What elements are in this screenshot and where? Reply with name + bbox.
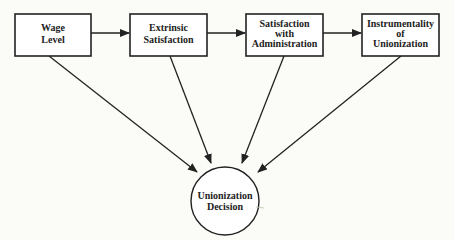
node-label-line: Level: [41, 34, 65, 45]
node-label-line: Extrinsic: [149, 22, 188, 33]
node-label-line: Administration: [252, 38, 318, 49]
edge-admin-to-decision: [242, 56, 284, 163]
node-unionization-decision: Unionization Decision: [191, 167, 259, 235]
node-label-line: Unionization: [373, 38, 428, 49]
node-label-line: Wage: [41, 22, 65, 33]
node-extrinsic-satisfaction: Extrinsic Satisfaction: [130, 14, 207, 56]
node-satisfaction-with-administration: Satisfaction with Administration: [246, 14, 323, 56]
path-diagram: Wage Level Extrinsic Satisfaction Satisf…: [0, 0, 454, 240]
edge-extrinsic-to-decision: [170, 56, 211, 163]
node-label-line: Unionization: [197, 190, 252, 201]
edge-instrumentality-to-decision: [258, 56, 401, 172]
node-instrumentality-of-unionization: Instrumentality of Unionization: [362, 14, 439, 56]
edge-wage-to-decision: [49, 56, 197, 172]
node-label-line: Satisfaction: [144, 34, 194, 45]
node-label-line: Decision: [207, 201, 244, 212]
node-wage-level: Wage Level: [15, 14, 91, 56]
